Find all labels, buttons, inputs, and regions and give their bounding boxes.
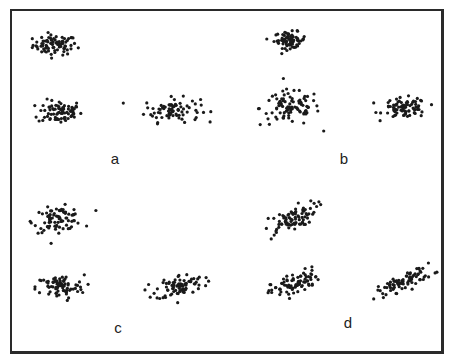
panel-label-c: c [114,319,122,336]
cluster-c-1 [29,203,98,245]
panel-d [265,199,439,300]
panel-label-b: b [340,150,348,167]
cluster-c-2 [33,273,89,302]
panel-label-a: a [111,150,119,167]
cluster-c-3 [143,273,210,304]
panel-c [29,203,211,305]
cluster-a-3 [122,95,213,126]
cluster-d-1 [265,199,323,240]
cluster-b-1 [265,29,306,55]
panel-label-d: d [344,314,352,331]
panel-a [31,31,213,126]
panel-b [257,29,433,132]
cluster-d-2 [267,265,320,300]
cluster-a-1 [31,31,80,60]
cluster-b-2 [257,77,325,133]
cluster-b-3 [372,94,433,122]
cluster-d-3 [372,261,438,300]
scatter-plot-area [0,0,456,363]
cluster-a-2 [33,97,82,123]
